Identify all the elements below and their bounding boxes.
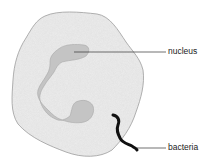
nucleus-label: nucleus [168,47,197,56]
cell-body [12,12,144,156]
bacteria-label: bacteria [168,143,198,152]
